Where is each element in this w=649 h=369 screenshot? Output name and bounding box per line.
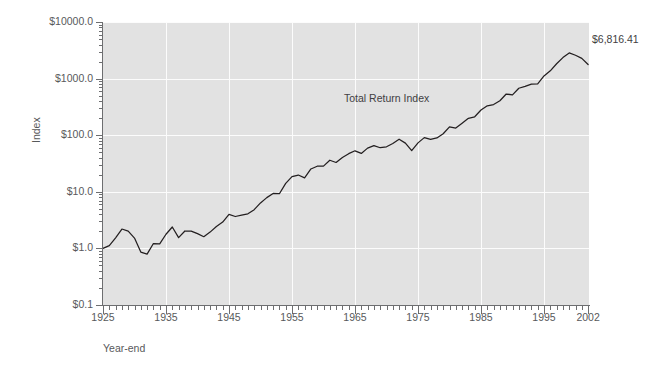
x-axis-tick-minor: [342, 306, 343, 310]
x-axis-tick-minor: [387, 306, 388, 310]
x-axis-tick-minor: [185, 306, 186, 310]
x-axis-tick-minor: [279, 306, 280, 310]
x-axis-tick-minor: [462, 306, 463, 310]
x-axis-tick-minor: [235, 306, 236, 310]
x-axis-tick-minor: [513, 306, 514, 310]
x-axis-tick-minor: [494, 306, 495, 310]
x-axis-tick-minor: [242, 306, 243, 310]
x-axis-tick-minor: [305, 306, 306, 310]
y-axis-line: [102, 22, 103, 306]
series-label-annotation: Total Return Index: [344, 92, 429, 104]
x-axis-tick-minor: [456, 306, 457, 310]
x-axis-tick-minor: [336, 306, 337, 310]
x-axis-tick-minor: [582, 306, 583, 310]
x-axis-tick-minor: [412, 306, 413, 310]
x-axis-tick-minor: [569, 306, 570, 310]
y-axis-title: Index: [30, 117, 42, 143]
x-axis-tick-minor: [393, 306, 394, 310]
plot-area: [103, 22, 589, 305]
x-axis-tick-label: 1995: [532, 312, 555, 323]
x-axis-title: Year-end: [103, 342, 145, 354]
x-axis-tick-major: [166, 306, 167, 314]
x-axis-tick-major: [103, 306, 104, 314]
y-axis-tick-label: $0.1: [0, 299, 93, 310]
x-axis-tick-minor: [160, 306, 161, 310]
x-axis-tick-minor: [122, 306, 123, 310]
x-axis-tick-label: 1945: [217, 312, 240, 323]
y-axis-tick-label: $1.0: [0, 242, 93, 253]
endpoint-value-label: $6,816.41: [592, 33, 639, 45]
x-axis-tick-major: [418, 306, 419, 314]
x-axis-tick-minor: [450, 306, 451, 310]
x-axis-tick-minor: [437, 306, 438, 310]
x-axis-tick-minor: [576, 306, 577, 310]
x-axis-tick-minor: [298, 306, 299, 310]
x-axis-tick-minor: [286, 306, 287, 310]
x-axis-tick-minor: [248, 306, 249, 310]
x-axis-tick-minor: [273, 306, 274, 310]
x-axis-tick-minor: [128, 306, 129, 310]
x-axis-tick-minor: [475, 306, 476, 310]
x-axis-tick-minor: [216, 306, 217, 310]
x-axis-tick-major: [588, 306, 589, 314]
x-axis-tick-minor: [431, 306, 432, 310]
chart-figure: $0.1$1.0$10.0$100.0$1000.0$10000.0 19251…: [0, 0, 649, 369]
x-axis-tick-label: 1985: [469, 312, 492, 323]
x-axis-tick-major: [481, 306, 482, 314]
x-axis-tick-minor: [210, 306, 211, 310]
x-axis-tick-minor: [399, 306, 400, 310]
y-axis-tick-label: $10000.0: [0, 16, 93, 27]
x-axis-tick-minor: [330, 306, 331, 310]
x-axis-tick-major: [229, 306, 230, 314]
y-axis-tick-label: $1000.0: [0, 73, 93, 84]
x-axis-tick-minor: [487, 306, 488, 310]
x-axis-tick-minor: [135, 306, 136, 310]
x-axis-tick-minor: [191, 306, 192, 310]
x-axis-tick-minor: [349, 306, 350, 310]
x-axis-tick-minor: [223, 306, 224, 310]
x-axis-line: [102, 305, 590, 306]
x-axis-tick-minor: [267, 306, 268, 310]
x-axis-tick-minor: [141, 306, 142, 310]
x-axis-tick-minor: [424, 306, 425, 310]
x-axis-tick-minor: [179, 306, 180, 310]
x-axis-tick-minor: [204, 306, 205, 310]
x-axis-tick-minor: [519, 306, 520, 310]
x-axis-tick-minor: [525, 306, 526, 310]
x-axis-tick-minor: [468, 306, 469, 310]
x-axis-tick-minor: [317, 306, 318, 310]
x-axis-tick-label: 2002: [576, 312, 599, 323]
x-axis-tick-minor: [405, 306, 406, 310]
x-axis-tick-minor: [109, 306, 110, 310]
x-axis-tick-minor: [563, 306, 564, 310]
x-axis-tick-minor: [380, 306, 381, 310]
x-axis-tick-minor: [311, 306, 312, 310]
total-return-index-line: [103, 53, 588, 254]
x-axis-tick-minor: [443, 306, 444, 310]
x-axis-tick-minor: [254, 306, 255, 310]
y-axis-tick-label: $10.0: [0, 186, 93, 197]
x-axis-tick-minor: [361, 306, 362, 310]
x-axis-tick-major: [292, 306, 293, 314]
x-axis-tick-minor: [368, 306, 369, 310]
x-axis-tick-minor: [550, 306, 551, 310]
x-axis-tick-minor: [198, 306, 199, 310]
x-axis-tick-minor: [374, 306, 375, 310]
x-axis-tick-minor: [153, 306, 154, 310]
x-axis-tick-minor: [538, 306, 539, 310]
x-axis-tick-major: [544, 306, 545, 314]
x-axis-tick-minor: [147, 306, 148, 310]
x-axis-tick-minor: [261, 306, 262, 310]
x-axis-tick-minor: [324, 306, 325, 310]
series-line-chart: [103, 22, 589, 305]
x-axis-tick-label: 1955: [280, 312, 303, 323]
x-axis-tick-minor: [116, 306, 117, 310]
x-axis-tick-label: 1935: [154, 312, 177, 323]
x-axis-tick-label: 1975: [406, 312, 429, 323]
x-axis-tick-minor: [172, 306, 173, 310]
y-axis-tick-label: $100.0: [0, 129, 93, 140]
x-axis-tick-minor: [500, 306, 501, 310]
x-axis-tick-minor: [506, 306, 507, 310]
x-axis-tick-minor: [557, 306, 558, 310]
x-axis-tick-label: 1965: [343, 312, 366, 323]
